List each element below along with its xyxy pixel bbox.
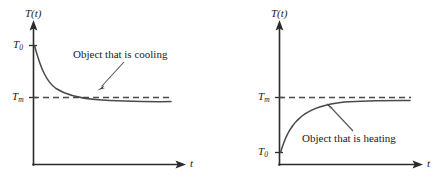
cooling-leader-line: [102, 62, 125, 87]
cooling-label-y-axis: T(t): [25, 8, 42, 19]
heating-label-x-axis: t: [427, 158, 430, 169]
cooling-label-tm: Tm: [12, 91, 24, 102]
heating-label-y-axis: T(t): [271, 8, 288, 19]
chart-panel-cooling: T0 Tm T(t) t Object that is cooling: [0, 0, 222, 181]
figure-newtons-law-of-cooling: T0 Tm T(t) t Object that is cooling: [0, 0, 444, 181]
cooling-label-t0: T0: [13, 39, 23, 50]
chart-panel-heating: Tm T0 T(t) t Object that is heating: [222, 0, 444, 181]
heating-annotation: Object that is heating: [302, 133, 396, 144]
cooling-annotation: Object that is cooling: [73, 49, 167, 60]
heating-curve: [281, 100, 411, 152]
heating-leader-line: [331, 107, 354, 131]
heating-label-t0: T0: [258, 146, 268, 157]
cooling-plot-svg: [0, 0, 222, 181]
heating-plot-svg: [222, 0, 444, 181]
cooling-label-x-axis: t: [190, 158, 193, 169]
heating-label-tm: Tm: [258, 91, 270, 102]
